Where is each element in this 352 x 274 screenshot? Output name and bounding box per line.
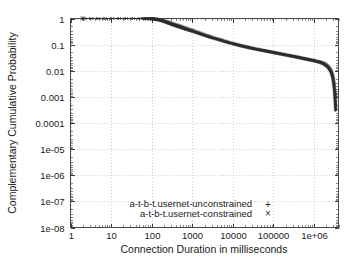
- x-tick-label: 1e+06: [301, 230, 328, 241]
- series-line: [83, 19, 336, 111]
- ccdf-log-log-plot: 1101001000100001000001e+06 10.10.010.001…: [0, 0, 352, 274]
- x-tick-label: 100000: [258, 230, 290, 241]
- x-tick-label: 10000: [220, 230, 246, 241]
- x-tick-label: 1: [69, 230, 74, 241]
- grid-lines: [71, 19, 339, 228]
- x-tick-label: 100: [145, 230, 161, 241]
- y-tick-label: 0.0001: [35, 118, 64, 129]
- y-tick-label: 1e-05: [40, 144, 64, 155]
- x-tick-label: 1000: [182, 230, 203, 241]
- plot-frame: [71, 19, 339, 228]
- x-axis-title: Connection Duration in milliseconds: [121, 243, 288, 255]
- series-line: [83, 19, 336, 110]
- legend-marker-cross-icon: ×: [265, 208, 271, 219]
- y-tick-label: 0.01: [46, 66, 65, 77]
- y-tick-label: 1: [59, 14, 64, 25]
- y-tick-label: 1e-07: [40, 196, 64, 207]
- data-series: [81, 16, 338, 110]
- minor-ticks: [71, 19, 340, 228]
- y-tick-label: 1e-08: [40, 223, 64, 234]
- major-ticks: [71, 19, 339, 229]
- y-tick-label: 0.001: [41, 92, 65, 103]
- x-tick-label: 10: [106, 230, 117, 241]
- y-axis-title: Complementary Cumulative Probability: [6, 32, 18, 214]
- legend: a-t-b-t.usernet-unconstrained+a-t-b-t.us…: [129, 198, 271, 219]
- x-axis-tick-labels: 1101001000100001000001e+06: [69, 230, 328, 241]
- chart-container: 1101001000100001000001e+06 10.10.010.001…: [0, 0, 352, 274]
- series-markers: [84, 17, 338, 111]
- y-tick-label: 1e-06: [40, 170, 64, 181]
- legend-label: a-t-b-t.usernet-constrained: [140, 208, 252, 219]
- y-axis-tick-labels: 10.10.010.0010.00011e-051e-061e-071e-08: [35, 14, 64, 234]
- y-tick-label: 0.1: [51, 40, 64, 51]
